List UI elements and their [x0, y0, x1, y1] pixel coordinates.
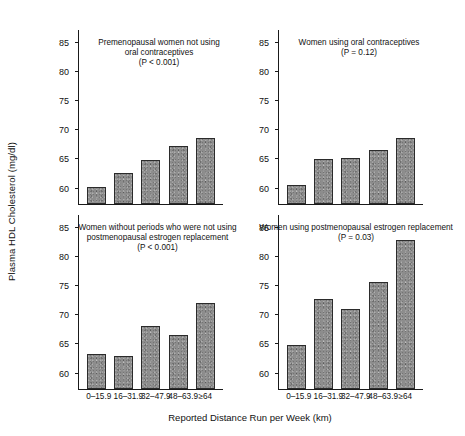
- figure: Plasma HDL Cholesterol (mg/dl) Premenopa…: [0, 0, 465, 436]
- x-axis-ticks-bottom-left: 0–15.916–31.932–47.948–63.9≥64: [78, 392, 223, 406]
- y-tick-label: 85: [59, 38, 69, 48]
- y-tick-mark: 60: [75, 373, 79, 374]
- x-tick-label: 16–31.9: [314, 392, 333, 406]
- bar: [169, 335, 188, 389]
- y-tick-label: 60: [259, 369, 269, 379]
- y-tick-mark: 85: [75, 42, 79, 43]
- y-tick-label: 75: [59, 96, 69, 106]
- bar-group-bottom-left: [79, 215, 223, 389]
- bar-group-top-left: [79, 30, 223, 204]
- y-tick-label: 65: [59, 154, 69, 164]
- y-tick-mark: 80: [75, 256, 79, 257]
- bar: [141, 160, 160, 204]
- x-tick-label: 32–47.9: [341, 392, 360, 406]
- y-tick-label: 85: [259, 223, 269, 233]
- y-tick-mark: 65: [275, 343, 279, 344]
- x-tick-label: 0–15.9: [286, 392, 305, 406]
- y-tick-label: 75: [259, 96, 269, 106]
- bar: [287, 185, 306, 204]
- y-tick-label: 80: [59, 67, 69, 77]
- y-tick-mark: 80: [275, 71, 279, 72]
- bar: [287, 345, 306, 389]
- panel-top-right: Women using oral contraceptives (P = 0.1…: [240, 30, 430, 225]
- bar: [114, 173, 133, 205]
- bar: [196, 138, 215, 205]
- bar: [314, 299, 333, 389]
- y-tick-label: 70: [259, 125, 269, 135]
- panel-top-left: Premenopausal women not using oral contr…: [40, 30, 230, 225]
- bar-group-bottom-right: [279, 215, 423, 389]
- y-tick-mark: 70: [75, 129, 79, 130]
- y-tick-label: 85: [259, 38, 269, 48]
- y-tick-mark: 65: [275, 158, 279, 159]
- y-tick-mark: 75: [75, 285, 79, 286]
- y-tick-mark: 70: [75, 314, 79, 315]
- y-tick-mark: 65: [75, 158, 79, 159]
- x-tick-label: ≥64: [196, 392, 215, 406]
- x-tick-label: ≥64: [396, 392, 415, 406]
- y-tick-mark: 85: [75, 227, 79, 228]
- y-tick-label: 80: [59, 252, 69, 262]
- y-tick-mark: 75: [275, 285, 279, 286]
- plot-area-bottom-left: 606570758085: [78, 215, 223, 390]
- bar: [169, 146, 188, 204]
- y-tick-mark: 75: [75, 100, 79, 101]
- y-tick-label: 80: [259, 252, 269, 262]
- y-tick-label: 70: [259, 310, 269, 320]
- bar: [369, 150, 388, 204]
- y-tick-label: 65: [59, 339, 69, 349]
- plot-area-bottom-right: 606570758085: [278, 215, 423, 390]
- y-tick-mark: 70: [275, 314, 279, 315]
- x-axis-title: Reported Distance Run per Week (km): [60, 412, 440, 423]
- y-axis-title-text: Plasma HDL Cholesterol (mg/dl): [6, 142, 17, 281]
- y-tick-label: 85: [59, 223, 69, 233]
- y-tick-label: 75: [59, 281, 69, 291]
- bar: [114, 356, 133, 389]
- y-tick-mark: 70: [275, 129, 279, 130]
- x-tick-label: 48–63.9: [168, 392, 187, 406]
- y-tick-label: 80: [259, 67, 269, 77]
- y-axis-title: Plasma HDL Cholesterol (mg/dl): [2, 96, 20, 326]
- bar: [314, 159, 333, 205]
- plot-area-top-left: 606570758085: [78, 30, 223, 205]
- x-tick-label: 32–47.9: [141, 392, 160, 406]
- y-tick-mark: 80: [75, 71, 79, 72]
- y-tick-label: 60: [59, 369, 69, 379]
- y-tick-mark: 85: [275, 42, 279, 43]
- bar: [396, 240, 415, 389]
- y-tick-label: 60: [259, 184, 269, 194]
- bar: [396, 138, 415, 204]
- bar: [369, 282, 388, 389]
- plot-area-top-right: 606570758085: [278, 30, 423, 205]
- bar: [87, 354, 106, 389]
- x-tick-label: 48–63.9: [368, 392, 387, 406]
- y-tick-mark: 65: [75, 343, 79, 344]
- y-tick-label: 70: [59, 310, 69, 320]
- y-tick-mark: 60: [275, 188, 279, 189]
- x-tick-label: 16–31.9: [114, 392, 133, 406]
- y-tick-mark: 85: [275, 227, 279, 228]
- y-tick-mark: 60: [275, 373, 279, 374]
- y-tick-label: 70: [59, 125, 69, 135]
- y-tick-label: 65: [259, 154, 269, 164]
- bar: [341, 158, 360, 204]
- x-axis-ticks-bottom-right: 0–15.916–31.932–47.948–63.9≥64: [278, 392, 423, 406]
- bar: [341, 309, 360, 389]
- y-tick-label: 65: [259, 339, 269, 349]
- y-tick-mark: 75: [275, 100, 279, 101]
- bar: [141, 326, 160, 389]
- y-tick-label: 75: [259, 281, 269, 291]
- panel-bottom-left: Women without periods who were not using…: [40, 215, 230, 410]
- y-tick-label: 60: [59, 184, 69, 194]
- x-tick-label: 0–15.9: [86, 392, 105, 406]
- bar-group-top-right: [279, 30, 423, 204]
- y-tick-mark: 60: [75, 188, 79, 189]
- panel-bottom-right: Women using postmenopausal estrogen repl…: [240, 215, 430, 410]
- bar: [87, 187, 106, 205]
- y-tick-mark: 80: [275, 256, 279, 257]
- bar: [196, 303, 215, 389]
